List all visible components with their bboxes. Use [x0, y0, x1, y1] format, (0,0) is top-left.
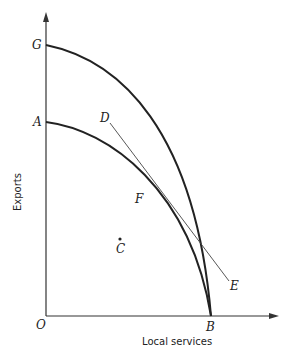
x-axis-arrow-icon	[269, 313, 279, 319]
label-e: E	[229, 279, 239, 293]
label-a: A	[32, 115, 42, 129]
label-origin: O	[36, 318, 46, 332]
y-axis-label: Exports	[12, 173, 23, 211]
inner-frontier-curve	[46, 122, 211, 316]
label-c: C	[116, 242, 125, 256]
x-axis-label: Local services	[142, 336, 212, 347]
y-axis-arrow-icon	[43, 12, 49, 22]
point-c-dot	[118, 237, 121, 240]
outer-frontier-curve	[46, 45, 211, 316]
label-b: B	[205, 320, 215, 334]
ppf-diagram: G A D F C E B O Local services Exports	[0, 0, 289, 359]
label-g: G	[32, 38, 42, 52]
label-f: F	[134, 192, 144, 206]
label-d: D	[99, 111, 110, 125]
